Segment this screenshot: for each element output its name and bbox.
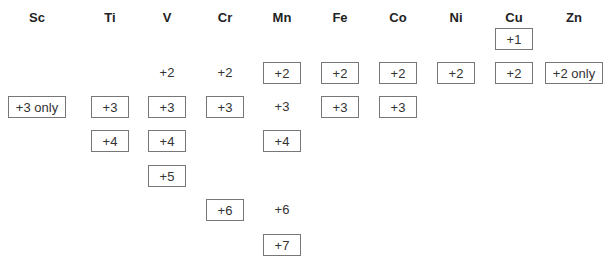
oxidation-state-v-plus2: +2 xyxy=(148,62,186,84)
element-header-mn: Mn xyxy=(252,10,312,25)
oxidation-state-cu-plus1: +1 xyxy=(495,28,533,50)
oxidation-state-mn-plus3: +3 xyxy=(263,96,301,118)
oxidation-state-ni-plus2: +2 xyxy=(437,62,475,84)
oxidation-state-cr-plus6: +6 xyxy=(206,199,244,221)
oxidation-state-v-plus3: +3 xyxy=(148,96,186,118)
oxidation-state-mn-plus2: +2 xyxy=(263,62,301,84)
oxidation-state-mn-plus6: +6 xyxy=(263,199,301,221)
oxidation-state-v-plus5: +5 xyxy=(148,165,186,187)
oxidation-state-ti-plus3: +3 xyxy=(91,96,129,118)
oxidation-state-sc-plus3: +3 only xyxy=(8,96,66,118)
oxidation-state-mn-plus4: +4 xyxy=(263,130,301,152)
oxidation-state-zn-plus2: +2 only xyxy=(545,62,603,84)
oxidation-state-cr-plus2: +2 xyxy=(206,62,244,84)
oxidation-state-fe-plus3: +3 xyxy=(321,96,359,118)
element-header-zn: Zn xyxy=(544,10,604,25)
oxidation-state-ti-plus4: +4 xyxy=(91,130,129,152)
element-header-ti: Ti xyxy=(80,10,140,25)
oxidation-state-mn-plus7: +7 xyxy=(263,234,301,256)
element-header-cu: Cu xyxy=(484,10,544,25)
oxidation-state-v-plus4: +4 xyxy=(148,130,186,152)
oxidation-state-co-plus3: +3 xyxy=(379,96,417,118)
element-header-fe: Fe xyxy=(310,10,370,25)
oxidation-state-cu-plus2: +2 xyxy=(495,62,533,84)
element-header-cr: Cr xyxy=(195,10,255,25)
oxidation-state-co-plus2: +2 xyxy=(379,62,417,84)
element-header-ni: Ni xyxy=(426,10,486,25)
oxidation-state-cr-plus3: +3 xyxy=(206,96,244,118)
oxidation-state-fe-plus2: +2 xyxy=(321,62,359,84)
element-header-sc: Sc xyxy=(7,10,67,25)
element-header-co: Co xyxy=(368,10,428,25)
element-header-v: V xyxy=(137,10,197,25)
